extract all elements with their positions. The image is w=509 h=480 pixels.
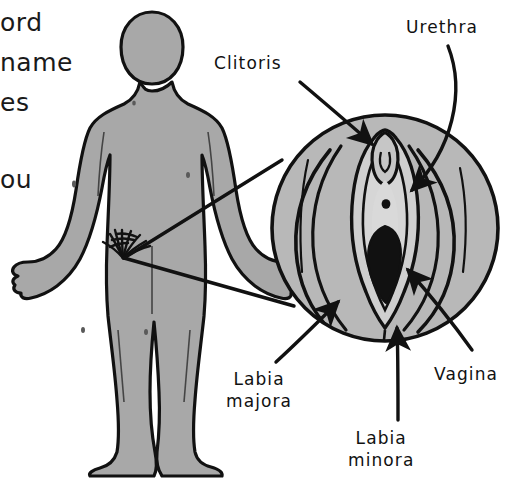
label-urethra-line-1: Urethra [406,16,478,38]
label-vagina: Vagina [434,363,498,385]
label-clitoris: Clitoris [214,52,282,74]
urethral-opening [382,199,391,209]
label-urethra: Urethra [406,16,478,38]
vulva-closeup-circle [272,115,498,360]
arrow-labia-minora [397,328,398,420]
label-clitoris-line-1: Clitoris [214,52,282,74]
label-labia-majora-line-1: Labia [226,368,292,390]
label-labia-majora: Labia majora [226,368,292,412]
label-labia-majora-line-2: majora [226,390,292,412]
label-labia-minora-line-2: minora [348,449,414,471]
label-labia-minora-line-1: Labia [348,427,414,449]
label-vagina-line-1: Vagina [434,363,498,385]
anatomy-diagram-page: ord name es ou [0,0,509,480]
body-head [121,12,183,84]
clitoral-hood [372,133,398,184]
label-labia-minora: Labia minora [348,427,414,471]
body-torso-limbs [13,82,300,476]
